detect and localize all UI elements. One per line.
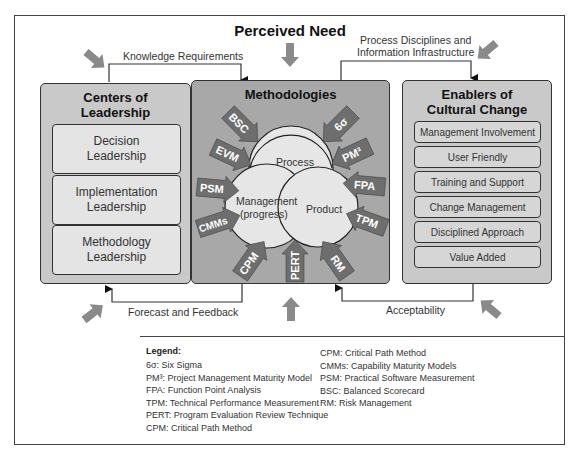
svg-text:PSM: PSM [199,181,224,195]
legend-item: CPM: Critical Path Method [320,347,475,360]
legend-item: PERT: Program Evaluation Review Techniqu… [146,409,328,422]
venn-product-label: Product [306,203,342,215]
svg-text:FPA: FPA [354,178,376,192]
legend-item: 6σ: Six Sigma [146,359,328,372]
venn-process-label: Process [276,156,314,168]
enablers-of-cultural-change-panel: Enablers of Cultural Change Management I… [402,80,552,284]
legend-item: PM³: Project Management Maturity Model [146,372,328,385]
legend: Legend: 6σ: Six Sigma PM³: Project Manag… [140,336,565,445]
enabler-change-management: Change Management [414,196,541,218]
enabler-disciplined-approach: Disciplined Approach [414,221,541,243]
venn-management-label: Management [236,195,297,207]
legend-item: PSM: Practical Software Measurement [320,372,475,385]
venn-diagram [225,126,358,248]
legend-column-2: CPM: Critical Path Method CMMs: Capabili… [320,347,475,410]
enabler-value-added: Value Added [414,246,541,268]
enabler-training-and-support: Training and Support [414,171,541,193]
legend-item: FPA: Function Point Analysis [146,384,328,397]
legend-item: RM: Risk Management [320,397,475,410]
svg-text:PERT: PERT [289,250,301,280]
venn-management-sublabel: (progress) [240,208,288,220]
legend-item: CPM: Critical Path Method [146,422,328,435]
enablers-title: Enablers of Cultural Change [403,87,551,117]
enabler-user-friendly: User Friendly [414,146,541,168]
legend-column-1: 6σ: Six Sigma PM³: Project Management Ma… [146,359,328,435]
enabler-management-involvement: Management Involvement [414,121,541,143]
legend-item: TPM: Technical Performance Measurement [146,397,328,410]
legend-title: Legend: [146,346,181,356]
arrow-pert: PERT [282,240,308,282]
legend-item: CMMs: Capability Maturity Models [320,360,475,373]
panel-title-line1: Enablers of [403,87,551,102]
legend-item: BSC: Balanced Scorecard [320,385,475,398]
panel-title-line2: Cultural Change [403,102,551,117]
